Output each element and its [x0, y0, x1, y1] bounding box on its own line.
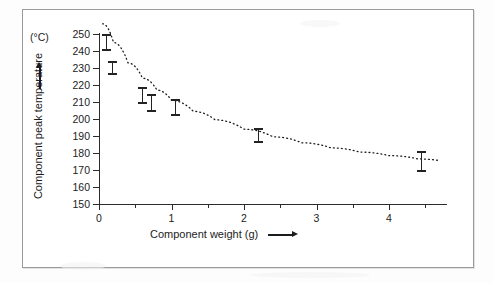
scan-artifact	[300, 20, 340, 27]
figure-page: (°C) Component peak temperature Componen…	[0, 0, 494, 283]
scan-artifact	[250, 272, 370, 278]
scan-artifact	[60, 262, 106, 270]
figure-frame	[22, 9, 474, 268]
